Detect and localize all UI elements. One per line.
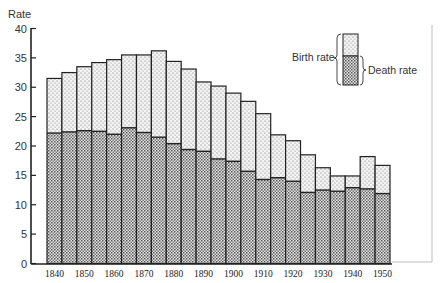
y-axis-title: Rate <box>8 8 31 20</box>
bar-death-rate-1890 <box>196 151 211 263</box>
bar-birth-rate-1905 <box>241 101 256 171</box>
legend-swatch-birth-rate <box>343 34 358 56</box>
legend-label-birth-rate: Birth rate <box>292 51 335 63</box>
bar-death-rate-1950 <box>375 194 390 264</box>
bar-birth-rate-1865 <box>122 55 137 128</box>
x-axis-ticks: 1840185018601870188018901900191019201930… <box>45 269 392 279</box>
bar-birth-rate-1875 <box>151 51 166 137</box>
bar-birth-rate-1845 <box>62 73 77 132</box>
chart: Rate 0510152025303540 184018501860187018… <box>0 0 441 283</box>
bar-birth-rate-1890 <box>196 82 211 151</box>
legend-brace-birth <box>334 34 341 85</box>
bar-birth-rate-1855 <box>92 63 107 132</box>
bar-birth-rate-1910 <box>256 114 271 180</box>
y-tick-label: 40 <box>15 23 27 35</box>
bar-birth-rate-1895 <box>211 86 226 159</box>
legend-brace-death <box>360 56 366 85</box>
x-tick-label: 1860 <box>105 269 124 279</box>
bar-death-rate-1860 <box>107 134 122 263</box>
bar-birth-rate-1945 <box>360 157 375 189</box>
bar-death-rate-1910 <box>256 179 271 263</box>
bar-birth-rate-1840 <box>47 78 62 133</box>
bar-death-rate-1895 <box>211 159 226 264</box>
bar-birth-rate-1950 <box>375 165 390 193</box>
y-tick-label: 0 <box>21 258 27 270</box>
x-tick-label: 1910 <box>254 269 273 279</box>
bar-death-rate-1915 <box>271 178 286 264</box>
bar-birth-rate-1935 <box>330 176 345 191</box>
x-tick-label: 1850 <box>75 269 94 279</box>
bar-death-rate-1875 <box>151 137 166 263</box>
bar-death-rate-1885 <box>181 150 196 264</box>
bar-death-rate-1855 <box>92 131 107 263</box>
bar-birth-rate-1870 <box>136 55 151 133</box>
bar-birth-rate-1885 <box>181 69 196 149</box>
bar-death-rate-1840 <box>47 133 62 263</box>
x-tick-label: 1880 <box>164 269 183 279</box>
bar-death-rate-1850 <box>77 131 92 264</box>
y-tick-label: 35 <box>15 52 27 64</box>
x-tick-label: 1840 <box>45 269 64 279</box>
bar-birth-rate-1940 <box>345 176 360 188</box>
bars <box>47 51 390 264</box>
bar-death-rate-1900 <box>226 161 241 263</box>
legend: Birth rate Death rate <box>292 34 417 85</box>
x-tick-label: 1940 <box>343 269 362 279</box>
bar-death-rate-1925 <box>301 192 316 263</box>
bar-death-rate-1920 <box>286 181 301 263</box>
bar-birth-rate-1860 <box>107 60 122 135</box>
bar-birth-rate-1920 <box>286 141 301 182</box>
bar-death-rate-1870 <box>136 132 151 263</box>
bar-birth-rate-1880 <box>166 61 181 143</box>
faint-right-axis <box>392 25 432 262</box>
y-tick-label: 5 <box>21 228 27 240</box>
x-tick-label: 1870 <box>134 269 153 279</box>
bar-birth-rate-1915 <box>271 135 286 178</box>
y-tick-label: 25 <box>15 111 27 123</box>
bar-death-rate-1865 <box>122 128 137 264</box>
bar-death-rate-1930 <box>315 190 330 263</box>
bar-birth-rate-1930 <box>315 168 330 190</box>
y-axis-ticks: 0510152025303540 <box>15 23 36 270</box>
x-tick-label: 1890 <box>194 269 213 279</box>
y-tick-label: 30 <box>15 81 27 93</box>
x-tick-label: 1950 <box>373 269 392 279</box>
bar-birth-rate-1850 <box>77 67 92 131</box>
bar-death-rate-1935 <box>330 191 345 263</box>
y-tick-label: 10 <box>15 199 27 211</box>
legend-swatch-death-rate <box>343 56 358 85</box>
bar-death-rate-1845 <box>62 132 77 264</box>
bar-death-rate-1905 <box>241 171 256 263</box>
bar-birth-rate-1900 <box>226 93 241 161</box>
y-tick-label: 15 <box>15 169 27 181</box>
x-tick-label: 1900 <box>224 269 243 279</box>
bar-death-rate-1880 <box>166 144 181 264</box>
bar-death-rate-1945 <box>360 189 375 264</box>
x-tick-label: 1920 <box>284 269 303 279</box>
y-tick-label: 20 <box>15 140 27 152</box>
legend-label-death-rate: Death rate <box>368 64 417 76</box>
bar-birth-rate-1925 <box>301 155 316 193</box>
bar-death-rate-1940 <box>345 188 360 264</box>
x-tick-label: 1930 <box>313 269 332 279</box>
